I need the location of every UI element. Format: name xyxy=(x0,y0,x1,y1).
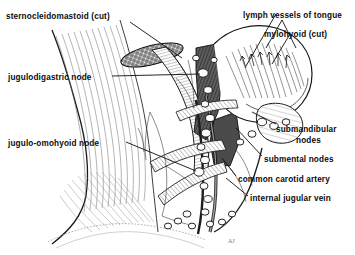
label-sternocleidomastoid: sternocleidomastoid (cut) xyxy=(6,12,110,22)
label-lymph-vessels-of-tongue: lymph vessels of tongue xyxy=(243,11,342,21)
label-jugulodigastric-node: jugulodigastric node xyxy=(8,73,92,83)
label-internal-jugular-vein: internal jugular vein xyxy=(250,194,331,204)
jugulo-omohyoid-node-marker xyxy=(194,168,204,176)
jugulodigastric-node-marker xyxy=(198,69,208,77)
label-mylohyoid: mylohyoid (cut) xyxy=(264,30,327,40)
label-submandibular-nodes: submandibular xyxy=(276,125,337,135)
anatomical-figure: AJ sternocleidomastoid (cut) lymph vesse… xyxy=(0,0,355,255)
clavicle-contour xyxy=(48,224,206,248)
label-jugulo-omohyoid-node: jugulo-omohyoid node xyxy=(8,139,99,149)
submental-node-marker xyxy=(248,131,256,138)
submandibular-node-marker xyxy=(257,118,266,126)
label-submental-nodes: submental nodes xyxy=(264,155,334,165)
label-common-carotid-artery: common carotid artery xyxy=(238,175,330,185)
artist-mark: AJ xyxy=(228,238,235,244)
label-submandibular-nodes-line2: nodes xyxy=(296,136,321,146)
